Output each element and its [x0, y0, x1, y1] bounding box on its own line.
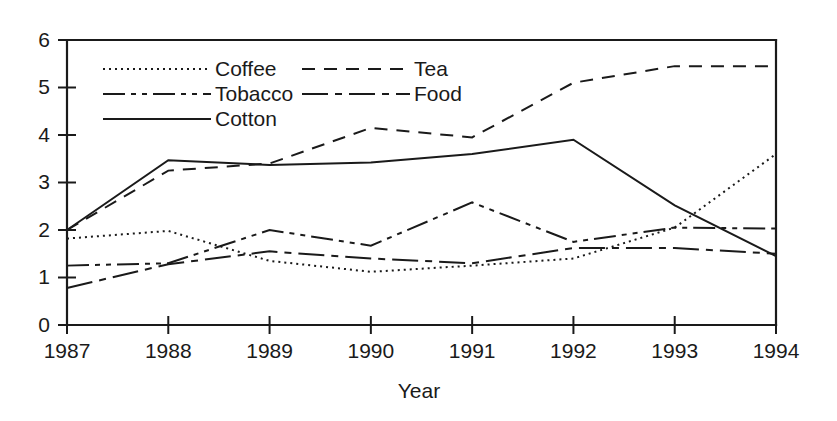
legend-label-tobacco: Tobacco — [215, 82, 293, 105]
series-line-food — [67, 248, 776, 288]
y-axis: 6543210 — [38, 28, 76, 336]
legend-label-tea: Tea — [414, 57, 448, 80]
series-line-cotton — [67, 140, 776, 256]
x-axis-title: Year — [398, 379, 440, 402]
x-tick-label: 1989 — [246, 339, 293, 362]
series-line-coffee — [67, 154, 776, 272]
legend-label-food: Food — [414, 82, 462, 105]
legend-label-cotton: Cotton — [215, 107, 277, 130]
y-tick-label: 1 — [38, 265, 50, 288]
legend-label-coffee: Coffee — [215, 57, 277, 80]
y-tick-label: 2 — [38, 218, 50, 241]
x-tick-label: 1994 — [753, 339, 800, 362]
x-axis: 19871988198919901991199219931994 — [44, 316, 800, 362]
y-tick-label: 6 — [38, 28, 50, 51]
y-tick-label: 5 — [38, 75, 50, 98]
x-tick-label: 1987 — [44, 339, 91, 362]
y-tick-label: 4 — [38, 123, 50, 146]
chart-container: 6543210 19871988198919901991199219931994… — [0, 0, 837, 421]
chart-legend: CoffeeTeaTobaccoFoodCotton — [103, 57, 462, 130]
line-chart: 6543210 19871988198919901991199219931994… — [0, 0, 837, 421]
series-line-tobacco — [67, 202, 776, 265]
x-tick-label: 1990 — [347, 339, 394, 362]
x-tick-label: 1992 — [550, 339, 597, 362]
y-tick-label: 3 — [38, 170, 50, 193]
y-tick-label: 0 — [38, 313, 50, 336]
x-tick-label: 1993 — [651, 339, 698, 362]
x-tick-label: 1988 — [145, 339, 192, 362]
x-tick-label: 1991 — [449, 339, 496, 362]
